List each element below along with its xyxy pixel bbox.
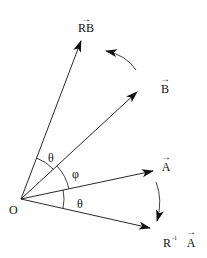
rotation-arrow-top	[106, 51, 136, 70]
vector-a	[21, 171, 153, 199]
vector-rinv-a	[21, 199, 150, 228]
svg-text:B: B	[161, 82, 169, 96]
label-theta-top: θ	[48, 151, 54, 165]
rotation-arrow-bottom	[156, 182, 160, 221]
svg-text:A: A	[187, 236, 196, 250]
arc-phi	[57, 166, 69, 189]
label-rinv-a: R -1 → A	[163, 226, 196, 250]
svg-text:RB: RB	[78, 21, 94, 35]
svg-text:R: R	[163, 236, 171, 250]
label-theta-bottom: θ	[77, 197, 83, 211]
label-phi: φ	[72, 167, 79, 181]
arc-theta-bottom	[63, 190, 64, 208]
rotation-diagram: → RB → B → A R -1 → A O θ φ θ	[0, 0, 207, 258]
label-a: → A	[161, 151, 171, 174]
label-b: → B	[160, 73, 170, 96]
label-origin: O	[9, 203, 18, 217]
svg-text:-1: -1	[172, 235, 177, 241]
vector-b	[21, 92, 137, 199]
label-rb: → RB	[78, 13, 94, 35]
svg-text:A: A	[162, 160, 171, 174]
